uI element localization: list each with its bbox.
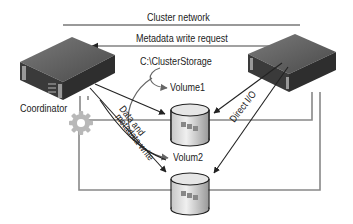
metadata-write-request-label: Metadata write request [136,33,228,44]
node2-server [248,34,336,92]
volume1-disk [171,104,209,146]
coordinator-label: Coordinator [20,103,67,114]
volume2-disk [171,173,209,215]
volume1-label: Volume1 [170,82,205,93]
path-to-volume1-arrow [150,68,167,88]
gear-icon [69,111,93,135]
cluster-network-label: Cluster network [147,12,210,23]
volume2-label: Volum2 [173,152,203,163]
cluster-storage-path-label: C:\ClusterStorage [140,56,212,67]
